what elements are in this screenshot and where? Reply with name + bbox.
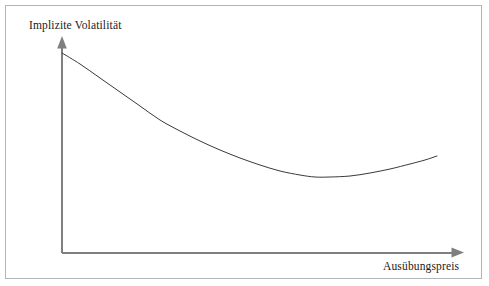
x-axis-label: Ausübungspreis <box>383 260 459 272</box>
x-axis-arrowhead-icon <box>452 248 465 258</box>
volatility-skew-plot <box>0 0 489 286</box>
implied-volatility-curve <box>62 53 437 177</box>
y-axis-arrowhead-icon <box>57 36 67 49</box>
y-axis-group <box>57 36 67 253</box>
x-axis-group <box>62 248 464 258</box>
y-axis-label: Implizite Volatilität <box>29 19 121 31</box>
diagram-canvas: Implizite Volatilität Ausübungspreis <box>0 0 489 286</box>
